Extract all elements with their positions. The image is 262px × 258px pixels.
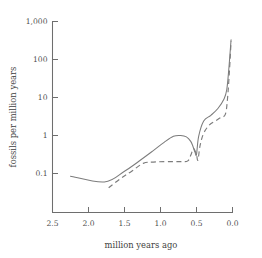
axes (53, 22, 233, 213)
chart-canvas: 1,0001001010.1 2.52.01.51.00.50.0 millio… (0, 0, 262, 258)
series-line-solid-curve (71, 40, 232, 182)
x-tick-label: 0.5 (190, 219, 202, 228)
x-tick-label: 0.0 (226, 219, 238, 228)
y-tick-label: 1,000 (26, 17, 48, 26)
y-axis-ticks (53, 22, 59, 174)
x-tick-label: 2.5 (46, 219, 58, 228)
y-tick-label: 100 (33, 55, 48, 64)
x-axis-tick-labels: 2.52.01.51.00.50.0 (46, 219, 238, 228)
x-tick-label: 1.0 (154, 219, 166, 228)
data-series (71, 40, 232, 188)
y-tick-label: 10 (38, 93, 48, 102)
y-tick-label: 1 (43, 131, 48, 140)
fossil-abundance-chart: 1,0001001010.1 2.52.01.51.00.50.0 millio… (0, 0, 262, 258)
y-axis-tick-labels: 1,0001001010.1 (26, 17, 48, 178)
x-axis-title: million years ago (105, 240, 178, 250)
x-axis-ticks (53, 207, 233, 213)
axis-frame (53, 22, 233, 213)
x-tick-label: 2.0 (82, 219, 94, 228)
x-tick-label: 1.5 (118, 219, 130, 228)
y-tick-label: 0.1 (35, 169, 47, 178)
y-axis-title: fossils per million years (8, 67, 18, 168)
series-line-dashed-curve (109, 41, 231, 187)
